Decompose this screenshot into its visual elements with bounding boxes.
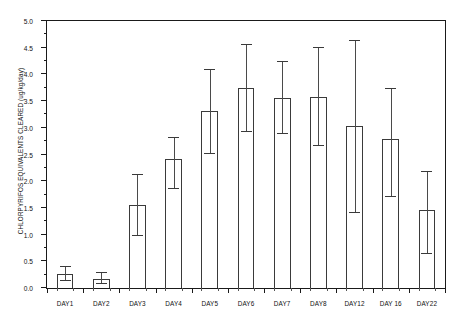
error-bar-cap-lower (421, 253, 432, 254)
x-axis-tick (228, 288, 229, 293)
error-bar-cap-lower (132, 235, 143, 236)
error-bar (282, 62, 283, 134)
error-bar (137, 175, 138, 236)
y-axis-minor-tick (44, 194, 48, 195)
plot-area: 0.00.51.01.52.02.53.03.54.04.55.0DAY1DAY… (46, 20, 446, 289)
y-axis-tick-label: 0.0 (24, 285, 33, 292)
x-axis-tick-label: DAY5 (202, 300, 219, 307)
y-axis-minor-tick (44, 167, 48, 168)
y-axis-tick: 1.0 (41, 234, 47, 235)
x-axis-minor-tick (129, 288, 130, 291)
error-bar (65, 267, 66, 281)
error-bar-cap-upper (421, 171, 432, 172)
y-axis-tick-label: 4.0 (24, 71, 33, 78)
error-bar-cap-upper (168, 137, 179, 138)
x-axis-tick-label: DAY1 (57, 300, 74, 307)
y-axis-tick-label: 2.5 (24, 151, 33, 158)
y-axis-tick-label: 3.5 (24, 98, 33, 105)
error-bar-cap-upper (277, 61, 288, 62)
error-bar (210, 70, 211, 154)
x-axis-tick (336, 288, 337, 293)
x-axis-minor-tick (57, 288, 58, 291)
error-bar-cap-upper (349, 40, 360, 41)
y-axis-tick: 4.0 (41, 73, 47, 74)
x-axis-minor-tick (146, 288, 147, 291)
x-axis-tick-label: DAY6 (238, 300, 255, 307)
y-axis-tick: 3.0 (41, 127, 47, 128)
x-axis-tick (192, 288, 193, 293)
x-axis-tick-label: DAY 16 (380, 300, 402, 307)
x-axis-tick (445, 288, 446, 293)
y-axis-tick-label: 5.0 (24, 18, 33, 25)
x-axis-minor-tick (254, 288, 255, 291)
x-axis-tick-label: DAY22 (417, 300, 437, 307)
chart-figure: CHLORPYRIFOS EQUIVALENTS CLEARED (ug/kg/… (0, 0, 466, 319)
x-axis-minor-tick (310, 288, 311, 291)
x-axis-minor-tick (165, 288, 166, 291)
x-axis-minor-tick (182, 288, 183, 291)
x-axis-tick (264, 288, 265, 293)
error-bar-cap-upper (385, 88, 396, 89)
error-bar (246, 45, 247, 132)
x-axis-minor-tick (274, 288, 275, 291)
error-bar-cap-upper (60, 266, 71, 267)
error-bar-cap-lower (349, 212, 360, 213)
y-axis-minor-tick (44, 33, 48, 34)
x-axis-tick (373, 288, 374, 293)
y-axis-tick: 3.5 (41, 100, 47, 101)
y-axis-tick-label: 4.5 (24, 44, 33, 51)
x-axis-minor-tick (363, 288, 364, 291)
x-axis-tick-label: DAY7 (274, 300, 291, 307)
y-axis-tick: 2.5 (41, 154, 47, 155)
y-axis-minor-tick (44, 140, 48, 141)
y-axis-tick: 4.5 (41, 47, 47, 48)
x-axis-tick-label: DAY2 (93, 300, 110, 307)
y-axis-tick: 0.5 (41, 260, 47, 261)
error-bar (391, 89, 392, 196)
x-axis-minor-tick (346, 288, 347, 291)
x-axis-minor-tick (382, 288, 383, 291)
x-axis-tick-label: DAY8 (310, 300, 327, 307)
x-axis-minor-tick (110, 288, 111, 291)
error-bar-cap-upper (132, 174, 143, 175)
x-axis-tick-label: DAY12 (344, 300, 364, 307)
y-axis-tick: 1.5 (41, 207, 47, 208)
x-axis-tick (47, 288, 48, 293)
x-axis-minor-tick (238, 288, 239, 291)
x-axis-minor-tick (201, 288, 202, 291)
x-axis-tick (300, 288, 301, 293)
y-axis-tick-label: 0.5 (24, 258, 33, 265)
error-bar-cap-lower (241, 131, 252, 132)
x-axis-minor-tick (218, 288, 219, 291)
x-axis-tick (409, 288, 410, 293)
y-axis-tick-label: 3.0 (24, 124, 33, 131)
error-bar-cap-upper (204, 69, 215, 70)
y-axis-minor-tick (44, 247, 48, 248)
x-axis-tick-label: DAY3 (129, 300, 146, 307)
x-axis-tick (156, 288, 157, 293)
x-axis-tick-label: DAY4 (165, 300, 182, 307)
x-axis-minor-tick (73, 288, 74, 291)
error-bar-cap-lower (204, 153, 215, 154)
y-axis-minor-tick (44, 220, 48, 221)
x-axis-minor-tick (399, 288, 400, 291)
y-axis-tick-label: 1.5 (24, 204, 33, 211)
y-axis-tick-label: 1.0 (24, 231, 33, 238)
x-axis-minor-tick (419, 288, 420, 291)
error-bar-cap-upper (96, 272, 107, 273)
x-axis-minor-tick (93, 288, 94, 291)
error-bar-cap-lower (385, 196, 396, 197)
error-bar-cap-lower (277, 133, 288, 134)
error-bar-cap-upper (241, 44, 252, 45)
error-bar-cap-lower (313, 145, 324, 146)
y-axis-minor-tick (44, 274, 48, 275)
error-bar-cap-upper (313, 47, 324, 48)
y-axis-minor-tick (44, 113, 48, 114)
error-bar-cap-lower (60, 280, 71, 281)
error-bar (174, 138, 175, 189)
error-bar (427, 172, 428, 254)
y-axis-tick: 2.0 (41, 180, 47, 181)
y-axis-minor-tick (44, 87, 48, 88)
error-bar-cap-lower (168, 188, 179, 189)
error-bar (355, 41, 356, 213)
